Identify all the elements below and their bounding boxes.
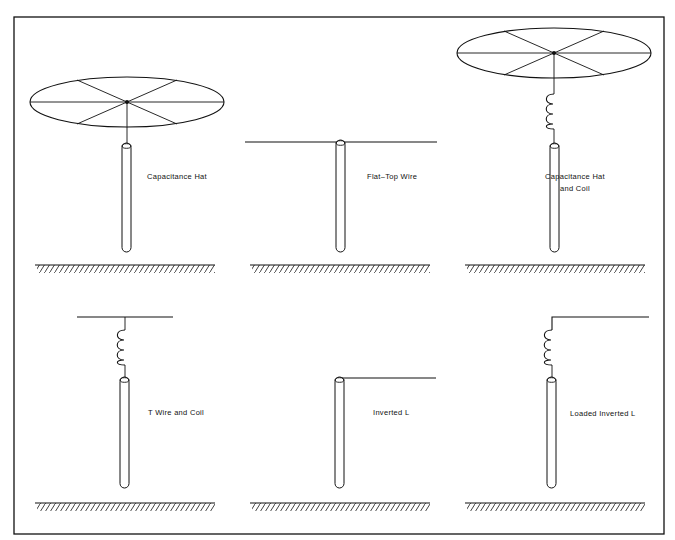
panel-label: and Coil — [560, 184, 590, 193]
mast-icon — [336, 140, 345, 252]
mast-icon — [122, 143, 131, 252]
antenna-loading-diagram: Capacitance Hat Flat–Top Wire — [0, 0, 675, 540]
ground-icon — [250, 265, 430, 273]
panel-label: Capacitance Hat — [545, 172, 606, 181]
panel-capacitance-hat-and-coil: Capacitance Hat and Coil — [457, 28, 651, 273]
horizontal-wire-icon — [552, 317, 649, 330]
panel-flat-top-wire: Flat–Top Wire — [245, 140, 437, 273]
panel-label: Flat–Top Wire — [367, 172, 417, 181]
mast-icon — [550, 143, 559, 252]
panel-capacitance-hat: Capacitance Hat — [30, 77, 224, 273]
mast-icon — [547, 377, 556, 488]
coil-icon — [546, 94, 554, 129]
ground-icon — [35, 265, 215, 273]
mast-icon — [120, 377, 129, 488]
coil-icon — [544, 330, 552, 365]
panel-t-wire-and-coil: T Wire and Coil — [35, 317, 215, 511]
panel-label: Inverted L — [373, 408, 409, 417]
ground-icon — [465, 265, 645, 273]
panel-label: Capacitance Hat — [147, 172, 208, 181]
panel-inverted-l: Inverted L — [250, 377, 436, 511]
mast-icon — [335, 377, 344, 488]
ground-icon — [465, 503, 645, 511]
panel-loaded-inverted-l: Loaded Inverted L — [465, 317, 649, 511]
ground-icon — [250, 503, 430, 511]
ground-icon — [35, 503, 215, 511]
panel-label: Loaded Inverted L — [570, 409, 636, 418]
panel-label: T Wire and Coil — [148, 408, 204, 417]
coil-icon — [117, 330, 125, 365]
